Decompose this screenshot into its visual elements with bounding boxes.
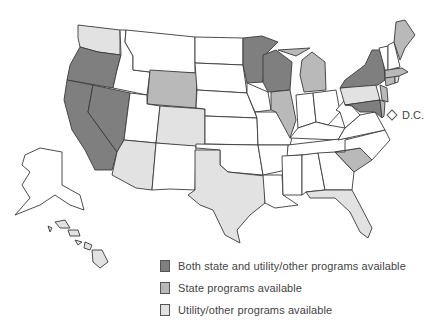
legend-label: State programs available (178, 282, 302, 294)
dc-label: D.C. (402, 109, 424, 121)
legend: Both state and utility/other programs av… (160, 256, 406, 322)
state-new-jersey (380, 85, 388, 102)
state-montana (125, 30, 195, 73)
state-wisconsin (263, 50, 292, 92)
legend-item-both: Both state and utility/other programs av… (160, 256, 406, 276)
state-alaska (15, 148, 84, 215)
state-kansas (205, 116, 258, 145)
swatch-util (160, 304, 170, 316)
state-north-dakota (195, 37, 243, 65)
legend-item-util: Utility/other programs available (160, 300, 406, 320)
legend-item-state: State programs available (160, 278, 406, 298)
dc-marker: D.C. (388, 109, 424, 121)
state-south-dakota (195, 63, 247, 93)
state-new-york (340, 50, 385, 88)
diamond-icon (386, 109, 397, 120)
state-mississippi (282, 155, 302, 195)
legend-label: Utility/other programs available (178, 304, 332, 316)
state-ohio (313, 90, 340, 125)
state-hawaii (48, 220, 108, 268)
swatch-state (160, 282, 170, 294)
state-rhode-island (395, 76, 399, 83)
state-new-mexico (152, 143, 196, 190)
state-wyoming (147, 70, 197, 108)
state-florida (306, 190, 372, 238)
swatch-both (160, 260, 170, 272)
state-colorado (156, 106, 205, 148)
legend-label: Both state and utility/other programs av… (178, 260, 406, 272)
